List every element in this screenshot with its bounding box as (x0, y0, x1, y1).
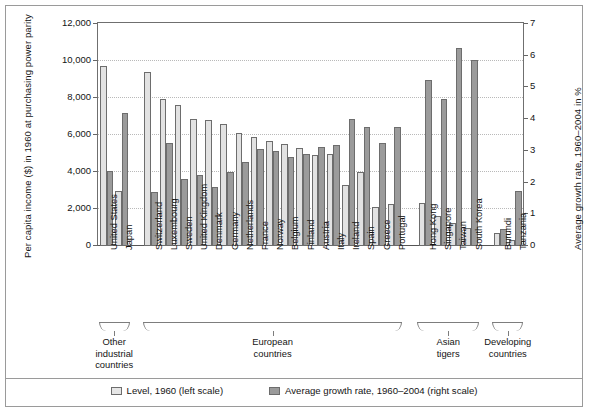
group-label: Developingcountries (453, 336, 563, 359)
y-tick-mark-right (524, 118, 528, 119)
x-axis-label-hong-kong: Hong Kong (429, 203, 438, 250)
y-tick-mark-left (93, 97, 97, 98)
legend-label-growth: Average growth rate, 1960–2004 (right sc… (285, 385, 477, 396)
y-tick-label-right: 3 (530, 145, 535, 155)
bar-level[interactable] (100, 66, 107, 246)
group-brace (143, 322, 402, 331)
x-axis-label-france: France (261, 221, 270, 250)
x-axis-label-united-states: United States (110, 194, 119, 250)
y-tick-label-right: 5 (530, 81, 535, 91)
y-axis-right-title: Average growth rate, 1960–2004 in % (572, 87, 583, 250)
x-axis-label-singapore: Singapore (444, 208, 453, 250)
legend-item-growth[interactable]: Average growth rate, 1960–2004 (right sc… (269, 385, 477, 396)
x-axis-label-germany: Germany (231, 212, 240, 250)
x-axis-label-belgium: Belgium (291, 216, 300, 250)
bar-growth[interactable] (456, 48, 463, 246)
y-tick-label-left: 12,000 (62, 18, 91, 28)
y-axis-left-title: Per capita income ($) in 1960 at purchas… (22, 14, 33, 258)
y-tick-label-left: 4,000 (67, 166, 91, 176)
x-axis-label-luxembourg: Luxembourg (170, 198, 179, 250)
y-tick-mark-left (93, 60, 97, 61)
y-tick-label-left: 10,000 (62, 55, 91, 65)
x-axis-label-italy: Italy (337, 233, 346, 250)
x-axis-label-united-kingdom: United Kingdom (200, 184, 209, 250)
x-axis-label-japan: Japan (125, 225, 134, 250)
x-axis-label-south-korea: South Korea (475, 198, 484, 250)
y-tick-mark-right (524, 86, 528, 87)
group-brace (492, 322, 523, 331)
y-tick-label-right: 4 (530, 113, 535, 123)
y-tick-mark-left (93, 208, 97, 209)
y-tick-label-right: 0 (530, 240, 535, 250)
x-axis-label-switzerland: Switzerland (155, 202, 164, 250)
x-axis-label-greece: Greece (383, 220, 392, 251)
y-tick-mark-right (524, 55, 528, 56)
x-axis-label-burundi: Burundi (504, 218, 513, 250)
y-tick-mark-right (524, 150, 528, 151)
legend-swatch-growth-icon (269, 387, 280, 395)
bar-level[interactable] (494, 233, 501, 246)
group-brace (417, 322, 479, 331)
y-tick-mark-right (524, 23, 528, 24)
legend-swatch-level-icon (111, 387, 122, 395)
legend-item-level[interactable]: Level, 1960 (left scale) (111, 385, 224, 396)
x-axis-label-netherlands: Netherlands (246, 200, 255, 250)
y-tick-label-left: 0 (86, 240, 91, 250)
group-brace (99, 322, 130, 331)
figure-container: Per capita income ($) in 1960 at purchas… (0, 0, 589, 413)
y-tick-label-left: 2,000 (67, 203, 91, 213)
y-tick-label-left: 8,000 (67, 92, 91, 102)
x-axis-label-austria: Austria (322, 221, 331, 250)
y-tick-mark-left (93, 134, 97, 135)
x-axis-label-taiwan: Taiwan (459, 221, 468, 250)
legend-label-level: Level, 1960 (left scale) (127, 385, 224, 396)
y-tick-label-right: 2 (530, 177, 535, 187)
y-tick-mark-right (524, 182, 528, 183)
y-tick-label-left: 6,000 (67, 129, 91, 139)
bar-growth[interactable] (333, 145, 340, 246)
y-tick-mark-left (93, 245, 97, 246)
group-label: Otherindustrialcountries (59, 336, 169, 371)
y-tick-label-right: 1 (530, 208, 535, 218)
y-tick-mark-left (93, 23, 97, 24)
bar-level[interactable] (144, 72, 151, 246)
x-axis-label-finland: Finland (307, 220, 316, 251)
x-axis-label-portugal: Portugal (398, 215, 407, 250)
group-label: Europeancountries (218, 336, 328, 359)
x-axis-label-norway: Norway (276, 218, 285, 250)
y-tick-label-right: 7 (530, 18, 535, 28)
y-tick-mark-left (93, 171, 97, 172)
x-axis-label-ireland: Ireland (352, 222, 361, 250)
chart-legend: Level, 1960 (left scale) Average growth … (5, 378, 583, 402)
x-axis-label-denmark: Denmark (215, 212, 224, 250)
y-tick-label-right: 6 (530, 50, 535, 60)
x-axis-label-sweden: Sweden (185, 216, 194, 250)
x-axis-label-tanzania: Tanzania (519, 213, 528, 250)
x-axis-label-spain: Spain (367, 226, 376, 250)
bar-level[interactable] (419, 203, 426, 246)
